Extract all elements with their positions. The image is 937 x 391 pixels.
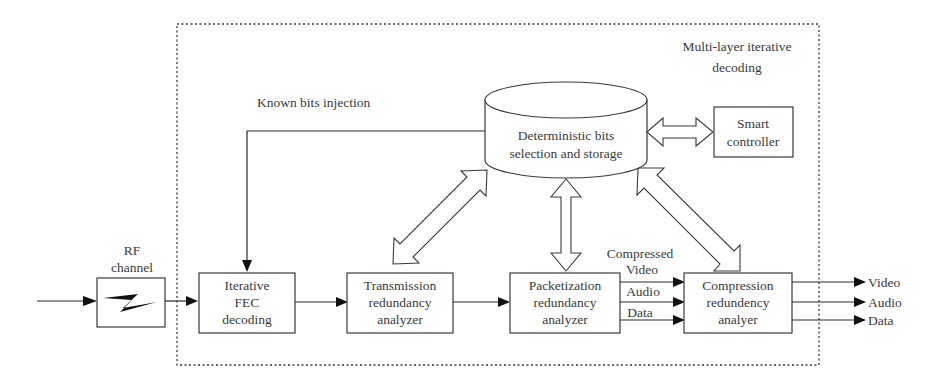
container-label-line2: decoding <box>712 60 762 75</box>
transmission-label-3: analyzer <box>377 312 423 327</box>
packetization-label-2: redundancy <box>534 295 597 310</box>
fec-label-1: Iterative <box>225 278 270 293</box>
transmission-to-packetization-arrow <box>453 297 510 307</box>
transmission-storage-double-arrow <box>393 170 487 264</box>
fec-label-2: FEC <box>235 295 260 310</box>
container-label-line1: Multi-layer iterative <box>682 39 791 54</box>
compression-label-1: Compression <box>702 278 774 293</box>
packetization-label-3: analyzer <box>542 312 588 327</box>
transmission-label-2: redundancy <box>369 295 432 310</box>
video-output-arrow <box>792 277 866 287</box>
storage-cylinder: Deterministic bits selection and storage <box>485 82 647 178</box>
compressed-label: Compressed <box>607 246 674 261</box>
input-arrow <box>37 296 97 306</box>
known-bits-injection-label: Known bits injection <box>257 95 370 110</box>
rf-to-fec-arrow <box>165 296 198 306</box>
audio-output-arrow <box>792 297 866 307</box>
smart-controller-label-2: controller <box>727 134 780 149</box>
data-output-arrow <box>792 315 866 325</box>
storage-label-1: Deterministic bits <box>518 128 614 143</box>
packetization-analyzer-block: Packetization redundancy analyzer <box>510 273 620 333</box>
audio-stream-label: Audio <box>626 284 660 299</box>
video-output-label: Video <box>868 275 900 290</box>
storage-label-2: selection and storage <box>509 146 622 161</box>
transmission-analyzer-block: Transmission redundancy analyzer <box>347 273 453 333</box>
fec-to-transmission-arrow <box>295 297 348 307</box>
packetization-storage-double-arrow <box>551 179 581 271</box>
compression-label-2: redundency <box>707 295 770 310</box>
rf-channel-label-line2: channel <box>111 260 153 275</box>
compression-analyzer-block: Compression redundency analyer <box>684 273 792 333</box>
data-output-label: Data <box>868 313 893 328</box>
smart-controller-label-1: Smart <box>737 116 769 131</box>
storage-controller-double-arrow <box>647 118 713 146</box>
video-stream-label: Video <box>626 262 658 277</box>
transmission-label-1: Transmission <box>364 278 437 293</box>
audio-output-label: Audio <box>868 295 902 310</box>
packetization-label-1: Packetization <box>529 278 602 293</box>
fec-label-3: decoding <box>222 312 272 327</box>
rf-channel-label-line1: RF <box>124 243 141 258</box>
decoder-block-diagram: Multi-layer iterative decoding RF channe… <box>0 0 937 391</box>
data-stream-label: Data <box>627 305 652 320</box>
compression-label-3: analyer <box>718 312 758 327</box>
fec-decoding-block: Iterative FEC decoding <box>199 273 295 333</box>
smart-controller-block: Smart controller <box>714 107 793 157</box>
